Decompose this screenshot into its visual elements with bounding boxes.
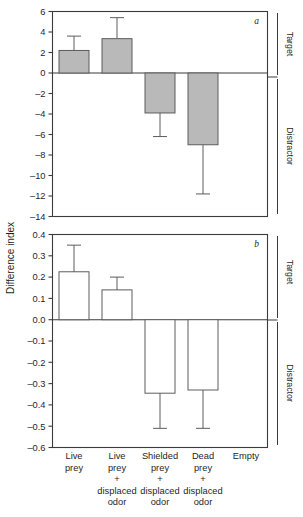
bar bbox=[59, 50, 89, 73]
y-tick-label: 6 bbox=[40, 7, 45, 17]
bar bbox=[145, 320, 175, 393]
y-tick-label: –0.1 bbox=[27, 336, 45, 346]
x-axis-label: displaced bbox=[140, 486, 179, 496]
x-axis-label: prey bbox=[65, 463, 83, 473]
bar bbox=[188, 73, 218, 145]
x-axis-category-labels: LivepreyLiveprey+displacedodorShieldedpr… bbox=[65, 451, 260, 507]
panel-a-letter: a bbox=[254, 16, 259, 26]
y-tick-label: –14 bbox=[30, 212, 46, 222]
x-axis-label: Dead bbox=[192, 451, 214, 461]
y-tick-label: –8 bbox=[35, 150, 45, 160]
y-tick-label: –0.4 bbox=[27, 400, 45, 410]
x-axis-label: Live bbox=[108, 451, 125, 461]
bar bbox=[102, 290, 132, 320]
y-tick-label: 0.2 bbox=[33, 272, 46, 282]
y-tick-label: –2 bbox=[35, 89, 45, 99]
y-tick-label: 0.0 bbox=[33, 315, 46, 325]
x-axis-label: + bbox=[114, 474, 119, 484]
y-tick-label: 0.4 bbox=[33, 230, 46, 240]
panel-a-y-tick-labels: 6420–2–4–6–8–10–12–14 bbox=[30, 7, 46, 222]
y-axis-title: Difference index bbox=[5, 222, 16, 294]
x-axis-label: + bbox=[200, 474, 205, 484]
y-tick-label: 0 bbox=[40, 68, 45, 78]
panel-a: 6420–2–4–6–8–10–12–14 a Target Distracto… bbox=[30, 7, 295, 222]
x-axis-label: prey bbox=[108, 463, 126, 473]
y-tick-label: 0.1 bbox=[33, 294, 46, 304]
bar bbox=[102, 39, 132, 73]
y-tick-label: –12 bbox=[30, 191, 46, 201]
y-tick-label: 2 bbox=[40, 48, 45, 58]
y-tick-label: –6 bbox=[35, 130, 45, 140]
panel-b-side-bracket bbox=[268, 236, 278, 445]
panel-b-target-label: Target bbox=[285, 260, 295, 285]
panel-a-target-label: Target bbox=[285, 32, 295, 57]
difference-index-bar-chart: Difference index 6420–2–4–6–8–10–12–14 a… bbox=[0, 0, 303, 517]
y-tick-label: –0.3 bbox=[27, 379, 45, 389]
y-tick-label: –10 bbox=[30, 171, 46, 181]
panel-b-distractor-label: Distractor bbox=[285, 364, 295, 402]
y-axis-title-text: Difference index bbox=[5, 222, 16, 294]
bar bbox=[145, 73, 175, 113]
panel-b-bars bbox=[59, 272, 218, 393]
bar bbox=[188, 320, 218, 390]
y-tick-label: –4 bbox=[35, 109, 45, 119]
x-axis-label: displaced bbox=[183, 486, 222, 496]
figure-container: Difference index 6420–2–4–6–8–10–12–14 a… bbox=[0, 0, 303, 517]
panel-b-letter: b bbox=[254, 239, 259, 249]
bar bbox=[59, 272, 89, 320]
panel-a-distractor-label: Distractor bbox=[285, 127, 295, 165]
x-axis-label: odor bbox=[194, 497, 213, 507]
x-axis-label: + bbox=[157, 474, 162, 484]
panel-a-side-bracket bbox=[268, 13, 278, 214]
y-tick-label: –0.5 bbox=[27, 422, 45, 432]
x-axis-label: Empty bbox=[233, 451, 260, 461]
x-axis-label: odor bbox=[108, 497, 127, 507]
panel-b-y-tick-labels: 0.40.30.20.10.0–0.1–0.2–0.3–0.4–0.5–0.6 bbox=[27, 230, 45, 453]
x-axis-label: prey bbox=[194, 463, 212, 473]
x-axis-label: Shielded bbox=[142, 451, 178, 461]
y-tick-label: 0.3 bbox=[33, 251, 46, 261]
panel-b-y-ticks bbox=[49, 235, 53, 448]
x-axis-label: prey bbox=[151, 463, 169, 473]
y-tick-label: –0.6 bbox=[27, 443, 45, 453]
panel-b: 0.40.30.20.10.0–0.1–0.2–0.3–0.4–0.5–0.6 … bbox=[27, 230, 295, 453]
panel-a-y-ticks bbox=[49, 12, 53, 217]
x-axis-label: displaced bbox=[97, 486, 136, 496]
x-axis-label: odor bbox=[151, 497, 170, 507]
panel-a-bars bbox=[59, 39, 218, 145]
x-axis-label: Live bbox=[65, 451, 82, 461]
y-tick-label: 4 bbox=[40, 27, 45, 37]
y-tick-label: –0.2 bbox=[27, 358, 45, 368]
